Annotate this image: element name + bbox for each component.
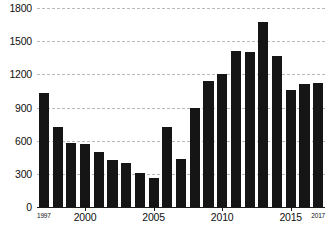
bar-slot	[215, 8, 229, 207]
bar-2014[interactable]	[272, 56, 282, 207]
bar-2004[interactable]	[135, 173, 145, 207]
bar-2008[interactable]	[190, 108, 200, 207]
y-tick-label: 1800	[9, 3, 32, 14]
x-tick-label: 2015	[279, 212, 302, 223]
bar-2017[interactable]	[313, 83, 323, 207]
bar-slot	[270, 8, 284, 207]
bar-slot	[37, 8, 51, 207]
bar-2005[interactable]	[149, 178, 159, 207]
bar-2011[interactable]	[231, 51, 241, 207]
bar-slot	[160, 8, 174, 207]
bar-slot	[106, 8, 120, 207]
y-axis: 0300600900120015001800	[0, 0, 37, 233]
bar-1998[interactable]	[53, 127, 63, 207]
bar-slot	[188, 8, 202, 207]
bar-slot	[202, 8, 216, 207]
bar-2002[interactable]	[107, 160, 117, 207]
bar-2003[interactable]	[121, 163, 131, 207]
y-tick-label: 900	[15, 102, 32, 113]
bar-slot	[133, 8, 147, 207]
bar-slot	[174, 8, 188, 207]
bar-2009[interactable]	[203, 81, 213, 207]
bar-slot	[64, 8, 78, 207]
bar-slot	[78, 8, 92, 207]
bar-2006[interactable]	[162, 127, 172, 207]
bar-chart: 0300600900120015001800 19972000200520102…	[0, 0, 332, 233]
y-tick-label: 300	[15, 169, 32, 180]
bar-slot	[119, 8, 133, 207]
bar-slot	[284, 8, 298, 207]
bar-2007[interactable]	[176, 159, 186, 207]
bar-slot	[51, 8, 65, 207]
y-tick-label: 0	[26, 202, 32, 213]
bar-slot	[229, 8, 243, 207]
bar-slot	[147, 8, 161, 207]
bar-2015[interactable]	[286, 90, 296, 207]
bar-2001[interactable]	[94, 152, 104, 207]
bar-2016[interactable]	[299, 84, 309, 207]
x-axis: 199720002005201020152017	[37, 207, 325, 233]
bar-2013[interactable]	[258, 22, 268, 207]
bar-slot	[311, 8, 325, 207]
bar-1999[interactable]	[66, 143, 76, 207]
x-tick-label: 2017	[311, 213, 325, 220]
bar-slot	[298, 8, 312, 207]
bar-2000[interactable]	[80, 144, 90, 207]
x-tick-label: 2000	[74, 212, 97, 223]
bar-2012[interactable]	[245, 52, 255, 207]
y-tick-label: 1500	[9, 36, 32, 47]
bar-1997[interactable]	[39, 93, 49, 207]
bar-slot	[92, 8, 106, 207]
y-tick-label: 600	[15, 135, 32, 146]
bar-series	[37, 8, 325, 207]
x-tick-label: 2005	[142, 212, 165, 223]
x-tick-label: 1997	[37, 213, 51, 220]
x-tick-label: 2010	[211, 212, 234, 223]
bar-2010[interactable]	[217, 74, 227, 207]
plot-area	[37, 8, 325, 207]
bar-slot	[257, 8, 271, 207]
bar-slot	[243, 8, 257, 207]
y-tick-label: 1200	[9, 69, 32, 80]
